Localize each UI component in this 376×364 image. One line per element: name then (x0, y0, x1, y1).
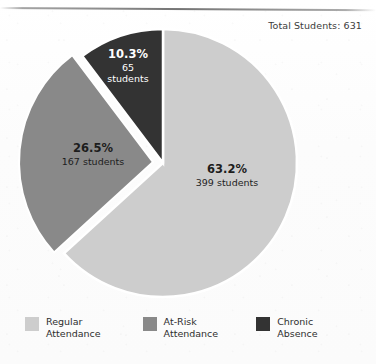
legend-swatch-regular-attendance (25, 317, 39, 331)
legend-swatch-at-risk-attendance (143, 317, 157, 331)
pie-label-chronic-absence: 10.3% 65 students (95, 48, 161, 84)
legend-label-at-risk-line1: At-Risk (164, 316, 197, 327)
legend-label-chronic-line2: Absence (277, 328, 317, 339)
pie-label-chronic-count-line2: students (95, 73, 161, 84)
legend-swatch-chronic-absence (256, 317, 270, 331)
legend-label-regular-attendance: Regular Attendance (46, 316, 101, 340)
legend-label-regular-line2: Attendance (46, 328, 101, 339)
legend-label-at-risk-attendance: At-Risk Attendance (164, 316, 219, 340)
legend-label-at-risk-line2: Attendance (164, 328, 219, 339)
legend-label-regular-line1: Regular (46, 316, 82, 327)
pie-label-at-risk-attendance: 26.5% 167 students (38, 142, 148, 167)
legend-label-chronic-line1: Chronic (277, 316, 313, 327)
legend-item-at-risk-attendance[interactable]: At-Risk Attendance (143, 316, 219, 340)
pie-label-chronic-percent: 10.3% (95, 48, 161, 62)
legend-item-chronic-absence[interactable]: Chronic Absence (256, 316, 317, 340)
legend-label-chronic-absence: Chronic Absence (277, 316, 317, 340)
pie-label-at-risk-count: 167 students (38, 156, 148, 167)
pie-label-at-risk-percent: 26.5% (38, 142, 148, 156)
legend-item-regular-attendance[interactable]: Regular Attendance (25, 316, 101, 340)
pie-label-chronic-count-line1: 65 (95, 62, 161, 73)
pie-label-regular-count: 399 students (172, 177, 282, 188)
pie-chart: 63.2% 399 students 26.5% 167 students 10… (0, 0, 376, 310)
chart-legend: Regular Attendance At-Risk Attendance Ch… (0, 316, 376, 360)
pie-label-regular-percent: 63.2% (172, 163, 282, 177)
chart-page: Total Students: 631 63.2% 399 students 2… (0, 0, 376, 364)
pie-label-regular-attendance: 63.2% 399 students (172, 163, 282, 188)
